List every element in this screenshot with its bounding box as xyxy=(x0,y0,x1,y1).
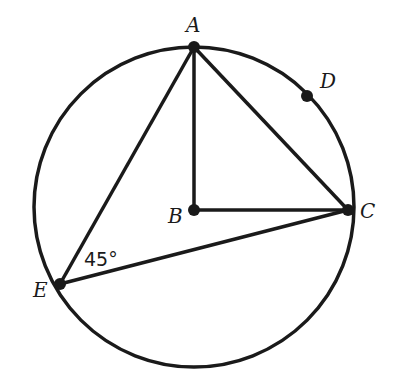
label-e: E xyxy=(32,278,48,302)
point-d xyxy=(301,90,313,102)
point-b xyxy=(188,204,200,216)
point-a xyxy=(188,41,200,53)
segment-ae xyxy=(60,47,194,284)
geometry-diagram: A B C D E 45° xyxy=(0,0,399,387)
label-b: B xyxy=(167,204,183,228)
segment-ec xyxy=(60,210,348,284)
angle-label-e: 45° xyxy=(84,248,118,270)
point-c xyxy=(342,204,354,216)
label-d: D xyxy=(319,69,336,93)
label-c: C xyxy=(360,199,375,223)
label-a: A xyxy=(184,13,200,37)
point-e xyxy=(54,278,66,290)
